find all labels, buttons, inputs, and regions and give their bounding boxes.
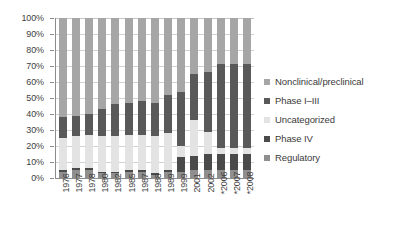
bar-segment: [138, 101, 146, 135]
y-tick-mark: [50, 66, 54, 67]
bar-column: [125, 18, 133, 178]
bar-segment: [164, 95, 172, 133]
legend-item[interactable]: Phase IV: [264, 129, 394, 148]
y-tick-mark: [50, 178, 54, 179]
bar-segment: [85, 135, 93, 169]
y-tick-label: 10%: [26, 158, 44, 167]
bar-segment: [151, 18, 159, 103]
bar-segment: [151, 103, 159, 137]
legend-swatch-icon: [264, 155, 270, 161]
bar-segment: [111, 104, 119, 136]
y-tick-mark: [50, 162, 54, 163]
x-tick-label: 1978: [88, 173, 97, 192]
y-tick-mark: [50, 50, 54, 51]
bar-segment: [204, 154, 212, 170]
bar-segment: [204, 72, 212, 131]
y-tick-label: 90%: [26, 30, 44, 39]
bar-segment: [243, 64, 251, 147]
x-tick: 1987: [137, 180, 145, 240]
bar-column: [243, 18, 251, 178]
bar-segment: [85, 114, 93, 135]
legend-item[interactable]: Phase I–III: [264, 91, 394, 110]
x-tick-label: 1988: [154, 173, 163, 192]
x-tick: 1989: [163, 180, 171, 240]
plot-area: [55, 18, 254, 179]
chart-legend: Nonclinical/preclinicalPhase I–IIIUncate…: [264, 72, 394, 167]
bar-segment: [98, 136, 106, 171]
bar-segment: [138, 18, 146, 101]
x-tick: 1988: [150, 180, 158, 240]
y-tick-label: 60%: [26, 78, 44, 87]
x-tick: *2007: [229, 180, 237, 240]
y-tick-label: 30%: [26, 126, 44, 135]
y-tick-label: 50%: [26, 94, 44, 103]
bar-column: [85, 18, 93, 178]
bar-segment: [190, 120, 198, 155]
x-tick-label: 1982: [114, 173, 123, 192]
y-tick-mark: [50, 98, 54, 99]
y-tick-mark: [50, 34, 54, 35]
bar-column: [138, 18, 146, 178]
y-tick-label: 20%: [26, 142, 44, 151]
y-tick-label: 0%: [31, 174, 44, 183]
bar-segment: [72, 18, 80, 116]
bar-segment: [164, 18, 172, 95]
x-tick: 1976: [58, 180, 66, 240]
bar-segment: [111, 18, 119, 104]
legend-swatch-icon: [264, 117, 270, 123]
bar-segment: [125, 135, 133, 170]
y-tick-mark: [50, 130, 54, 131]
bar-column: [190, 18, 198, 178]
y-tick-label: 70%: [26, 62, 44, 71]
bar-segment: [243, 154, 251, 170]
legend-item[interactable]: Uncategorized: [264, 110, 394, 129]
bar-column: [111, 18, 119, 178]
legend-label: Phase I–III: [275, 96, 319, 106]
bar-column: [98, 18, 106, 178]
bar-segment: [190, 156, 198, 170]
x-tick-label: 1989: [167, 173, 176, 192]
bar-segment: [177, 146, 185, 157]
bar-column: [164, 18, 172, 178]
bar-segment: [59, 117, 67, 138]
bar-segment: [72, 136, 80, 168]
bar-segment: [98, 109, 106, 136]
x-tick: 1999: [176, 180, 184, 240]
bar-segment: [59, 18, 67, 117]
legend-label: Phase IV: [275, 134, 313, 144]
x-tick-label: 1999: [180, 173, 189, 192]
legend-item[interactable]: Nonclinical/preclinical: [264, 72, 394, 91]
legend-swatch-icon: [264, 79, 270, 85]
bar-segment: [217, 64, 225, 147]
bar-segment: [111, 136, 119, 171]
x-tick: 1980: [97, 180, 105, 240]
bar-column: [59, 18, 67, 178]
bar-segment: [59, 138, 67, 170]
legend-item[interactable]: Regulatory: [264, 148, 394, 167]
y-axis: 100%90%80%70%60%50%40%30%20%10%0%: [0, 18, 50, 178]
bar-segment: [230, 64, 238, 147]
x-tick-label: 1985: [128, 173, 137, 192]
x-tick-label: 1977: [75, 173, 84, 192]
bar-segment: [204, 18, 212, 72]
y-tick-mark: [50, 18, 54, 19]
legend-swatch-icon: [264, 136, 270, 142]
x-tick: 1985: [124, 180, 132, 240]
bar-segment: [217, 154, 225, 170]
legend-label: Uncategorized: [275, 115, 335, 125]
bar-segment: [85, 18, 93, 114]
bar-segment: [190, 74, 198, 120]
bar-segment: [72, 116, 80, 137]
x-tick: *2008: [242, 180, 250, 240]
bar-column: [72, 18, 80, 178]
bar-segment: [151, 136, 159, 173]
bar-segment: [243, 18, 251, 64]
bar-segment: [125, 18, 133, 103]
legend-label: Regulatory: [275, 153, 320, 163]
bar-segment: [230, 18, 238, 64]
x-tick-label: 2002: [207, 173, 216, 192]
x-tick-label: 1976: [62, 173, 71, 192]
x-tick: 1977: [71, 180, 79, 240]
bar-segment: [164, 133, 172, 170]
bar-column: [151, 18, 159, 178]
